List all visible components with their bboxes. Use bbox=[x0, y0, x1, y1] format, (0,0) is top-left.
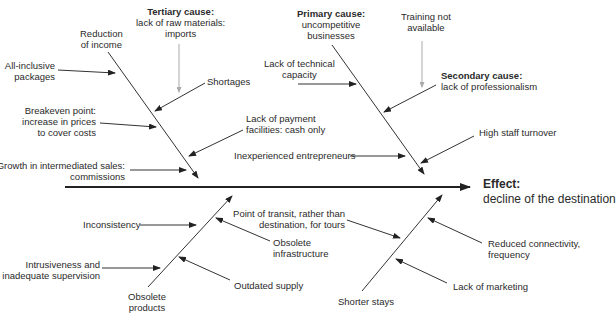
tertiary-cause-label: Tertiary cause: lack of raw materials: i… bbox=[136, 6, 225, 39]
shortages-label: Shortages bbox=[207, 76, 250, 87]
intrusiveness-label: Intrusiveness and inadequate supervision bbox=[2, 259, 100, 281]
bone-lower-right bbox=[362, 195, 442, 291]
lack-of-marketing-label: Lack of marketing bbox=[453, 281, 528, 292]
arrow-all-inclusive bbox=[58, 70, 115, 73]
technical-capacity-label: Lack of technical capacity bbox=[264, 58, 335, 80]
primary-cause-label: Primary cause: uncompetitive businesses bbox=[297, 8, 365, 41]
high-staff-turnover-label: High staff turnover bbox=[479, 127, 556, 138]
secondary-cause-label: Secondary cause: lack of professionalism bbox=[441, 70, 537, 92]
reduced-connectivity-label: Reduced connectivity, frequency bbox=[488, 238, 580, 260]
obsolete-products-label: Obsolete products bbox=[128, 291, 166, 313]
reduction-of-income-label: Reduction of income bbox=[80, 28, 123, 50]
effect-title: Effect: bbox=[483, 177, 616, 192]
breakeven-label: Breakeven point: increase in prices to c… bbox=[22, 105, 96, 138]
arrow-secondary bbox=[384, 85, 436, 112]
arrow-connectivity bbox=[428, 218, 482, 243]
bone-lower-left bbox=[148, 196, 232, 287]
outdated-supply-label: Outdated supply bbox=[234, 280, 303, 291]
effect-text: decline of the destination bbox=[483, 192, 616, 207]
growth-label: Growth in intermediated sales: commissio… bbox=[0, 160, 125, 182]
arrow-breakeven bbox=[100, 123, 156, 127]
inexperienced-entrepreneurs-label: Inexperienced entrepreneurs bbox=[234, 150, 355, 161]
training-not-available-label: Training not available bbox=[401, 11, 451, 33]
obsolete-infrastructure-label: Obsolete infrastructure bbox=[273, 237, 328, 259]
arrow-turnover bbox=[421, 136, 474, 163]
arrow-shortages bbox=[155, 83, 205, 111]
all-inclusive-label: All-inclusive packages bbox=[5, 60, 55, 82]
effect-label: Effect: decline of the destination bbox=[483, 177, 616, 207]
inconsistency-label: Inconsistency bbox=[83, 219, 141, 230]
arrow-marketing bbox=[396, 259, 447, 283]
arrow-outdated bbox=[179, 257, 230, 280]
shorter-stays-label: Shorter stays bbox=[338, 296, 394, 307]
arrow-transit bbox=[347, 220, 400, 238]
point-of-transit-label: Point of transit, rather than destinatio… bbox=[233, 208, 345, 230]
lack-of-payment-label: Lack of payment facilities: cash only bbox=[246, 113, 325, 135]
